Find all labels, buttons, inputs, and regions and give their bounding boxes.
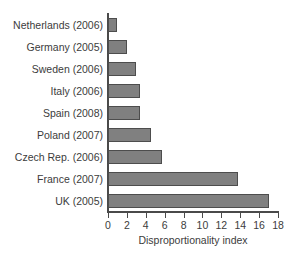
- bar-row: [108, 146, 162, 168]
- bar: [108, 150, 162, 164]
- x-axis-tick: [108, 213, 109, 218]
- category-label: Sweden (2006): [0, 58, 103, 80]
- x-axis-tick: [202, 213, 203, 218]
- x-axis-title: Disproportionality index: [108, 234, 278, 246]
- x-axis-tick-label: 0: [98, 219, 118, 232]
- x-axis-tick: [146, 213, 147, 218]
- x-axis-tick-label: 14: [230, 219, 250, 232]
- bar: [108, 84, 140, 98]
- x-axis-tick-label: 16: [249, 219, 269, 232]
- disproportionality-index-bar-chart: Netherlands (2006)Germany (2005)Sweden (…: [0, 0, 293, 255]
- x-axis-tick-label: 2: [117, 219, 137, 232]
- x-axis-tick-label: 10: [192, 219, 212, 232]
- bar: [108, 128, 151, 142]
- bar-row: [108, 124, 151, 146]
- category-label: Czech Rep. (2006): [0, 146, 103, 168]
- category-label: Poland (2007): [0, 124, 103, 146]
- x-axis-tick-label: 12: [211, 219, 231, 232]
- bar-row: [108, 14, 117, 36]
- category-label-column: Netherlands (2006)Germany (2005)Sweden (…: [0, 14, 103, 212]
- x-axis-tick-label: 8: [174, 219, 194, 232]
- category-label: France (2007): [0, 168, 103, 190]
- x-axis-tick-label: 18: [268, 219, 288, 232]
- bar: [108, 40, 127, 54]
- x-axis-tick-label: 4: [136, 219, 156, 232]
- bar: [108, 172, 238, 186]
- x-axis-tick: [165, 213, 166, 218]
- category-label: Germany (2005): [0, 36, 103, 58]
- bar: [108, 106, 140, 120]
- bar: [108, 194, 269, 208]
- bar-row: [108, 80, 140, 102]
- bar-row: [108, 58, 136, 80]
- bar-row: [108, 190, 269, 212]
- x-axis-tick: [221, 213, 222, 218]
- category-label: Netherlands (2006): [0, 14, 103, 36]
- bar: [108, 62, 136, 76]
- category-label: Spain (2008): [0, 102, 103, 124]
- x-axis-tick: [278, 213, 279, 218]
- category-label: Italy (2006): [0, 80, 103, 102]
- category-label: UK (2005): [0, 190, 103, 212]
- bar-row: [108, 36, 127, 58]
- x-axis-tick-label: 6: [155, 219, 175, 232]
- x-axis-tick: [127, 213, 128, 218]
- x-axis-tick: [184, 213, 185, 218]
- plot-area: [108, 14, 278, 212]
- bar: [108, 18, 117, 32]
- bar-row: [108, 102, 140, 124]
- bar-row: [108, 168, 238, 190]
- x-axis-tick: [259, 213, 260, 218]
- x-axis-tick: [240, 213, 241, 218]
